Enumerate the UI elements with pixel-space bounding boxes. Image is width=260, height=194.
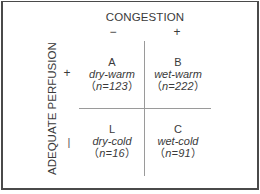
quadrant-label: dry-warm — [79, 68, 145, 80]
quadrant-a: A dry-warm （n=123） — [79, 56, 145, 92]
horizontal-divider — [79, 108, 211, 109]
quadrant-label: wet-cold — [145, 135, 211, 147]
quadrant-letter: B — [145, 56, 211, 68]
quadrant-b: B wet-warm （n=222） — [145, 56, 211, 92]
quadrant-l: L dry-cold （n=16） — [79, 123, 145, 159]
quadrant-count: （n=91） — [145, 147, 211, 159]
quadrant-letter: A — [79, 56, 145, 68]
perfusion-axis-title: ADEQUATE PERFUSION — [46, 45, 58, 175]
congestion-positive-sign: + — [167, 25, 187, 39]
congestion-axis-title: CONGESTION — [100, 11, 190, 23]
quadrant-letter: L — [79, 123, 145, 135]
quadrant-letter: C — [145, 123, 211, 135]
diagram-frame — [1, 1, 259, 190]
quadrant-count: （n=16） — [79, 147, 145, 159]
congestion-negative-sign: − — [103, 25, 123, 39]
quadrant-label: dry-cold — [79, 135, 145, 147]
perfusion-negative-sign: | — [62, 136, 76, 148]
quadrant-count: （n=123） — [79, 80, 145, 92]
quadrant-c: C wet-cold （n=91） — [145, 123, 211, 159]
quadrant-label: wet-warm — [145, 68, 211, 80]
perfusion-positive-sign: + — [60, 66, 74, 80]
quadrant-count: （n=222） — [145, 80, 211, 92]
